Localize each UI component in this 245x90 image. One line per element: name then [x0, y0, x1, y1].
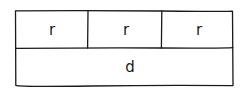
cell-label-r1: r	[49, 21, 56, 39]
cell-label-r2: r	[123, 21, 130, 39]
cell-label-r3: r	[196, 21, 203, 39]
row-divider	[16, 48, 233, 49]
cell-label-d: d	[125, 58, 135, 76]
layout-diagram: r r r d	[0, 0, 245, 90]
